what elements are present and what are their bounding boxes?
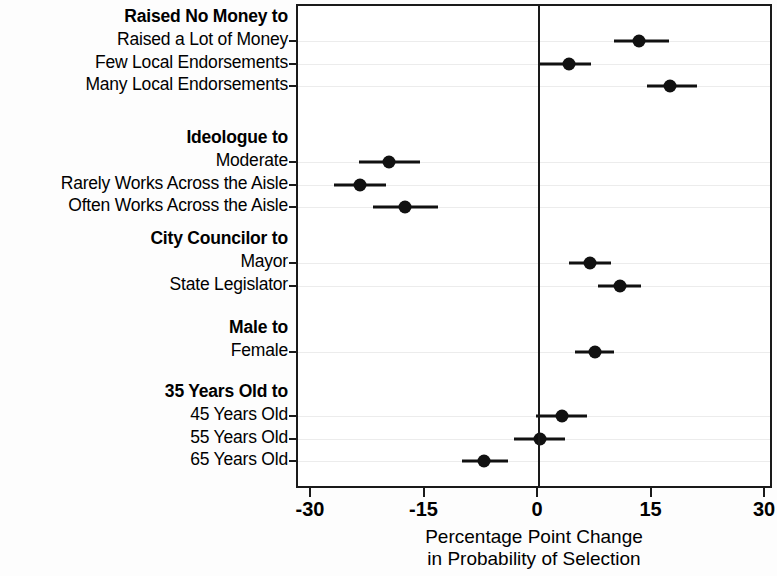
x-axis: Percentage Point Change in Probability o…	[296, 488, 772, 576]
row-label: Often Works Across the Aisle	[0, 196, 292, 215]
row-label: Rarely Works Across the Aisle	[0, 173, 292, 192]
point-estimate-marker	[588, 346, 601, 359]
point-estimate-marker	[555, 410, 568, 423]
row-label: 55 Years Old	[0, 427, 292, 446]
group-header-label: City Councilor to	[0, 229, 292, 248]
x-axis-tick-label: 0	[531, 498, 542, 521]
plot-inner	[298, 6, 770, 486]
point-estimate-marker	[563, 57, 576, 70]
y-axis-tick	[289, 415, 298, 417]
row-label: 65 Years Old	[0, 450, 292, 469]
y-axis-tick	[289, 285, 298, 287]
row-label: State Legislator	[0, 274, 292, 293]
row-label: Moderate	[0, 151, 292, 170]
gridline	[298, 86, 770, 87]
x-axis-tick	[763, 488, 765, 497]
x-axis-tick	[309, 488, 311, 497]
zero-reference-line	[538, 6, 540, 486]
point-estimate-marker	[613, 279, 626, 292]
y-axis-tick	[289, 206, 298, 208]
gridline	[298, 416, 770, 417]
plot-area	[296, 4, 772, 488]
x-axis-tick-label: -15	[409, 498, 438, 521]
gridline	[298, 263, 770, 264]
row-label: Raised a Lot of Money	[0, 30, 292, 49]
group-header-label: 35 Years Old to	[0, 382, 292, 401]
point-estimate-marker	[632, 35, 645, 48]
y-axis-tick	[289, 438, 298, 440]
y-axis-tick	[289, 460, 298, 462]
row-label: 45 Years Old	[0, 405, 292, 424]
gridline	[298, 207, 770, 208]
point-estimate-marker	[583, 257, 596, 270]
y-axis-tick	[289, 85, 298, 87]
y-axis-tick	[289, 184, 298, 186]
gridline	[298, 64, 770, 65]
point-estimate-marker	[663, 80, 676, 93]
group-header-label: Raised No Money to	[0, 7, 292, 26]
gridline	[298, 352, 770, 353]
y-axis-tick	[289, 40, 298, 42]
x-axis-tick-label: 15	[639, 498, 661, 521]
x-axis-tick	[536, 488, 538, 497]
x-axis-tick	[423, 488, 425, 497]
row-label-column: Raised No Money toRaised a Lot of MoneyF…	[0, 0, 292, 492]
group-header-label: Ideologue to	[0, 128, 292, 147]
point-estimate-marker	[477, 455, 490, 468]
row-label: Female	[0, 341, 292, 360]
gridline	[298, 461, 770, 462]
point-estimate-marker	[399, 201, 412, 214]
gridline	[298, 286, 770, 287]
x-axis-tick	[650, 488, 652, 497]
point-estimate-marker	[354, 178, 367, 191]
gridline	[298, 41, 770, 42]
y-axis-tick	[289, 63, 298, 65]
y-axis-tick	[289, 262, 298, 264]
point-estimate-marker	[383, 156, 396, 169]
x-axis-title: Percentage Point Change in Probability o…	[296, 526, 772, 570]
row-label: Mayor	[0, 252, 292, 271]
group-header-label: Male to	[0, 318, 292, 337]
row-label: Few Local Endorsements	[0, 52, 292, 71]
y-axis-tick	[289, 161, 298, 163]
x-axis-tick-label: 30	[753, 498, 775, 521]
row-label: Many Local Endorsements	[0, 75, 292, 94]
y-axis-tick	[289, 351, 298, 353]
coefficient-plot-figure: Raised No Money toRaised a Lot of MoneyF…	[0, 0, 777, 576]
x-axis-tick-label: -30	[296, 498, 325, 521]
